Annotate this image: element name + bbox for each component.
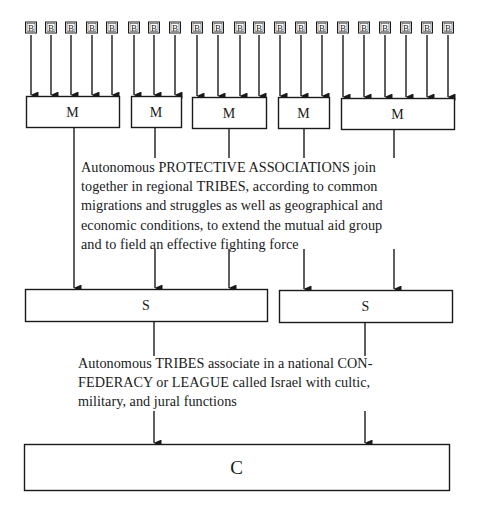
c-confederacy: C (25, 445, 450, 491)
caption-line: migrations and struggles as well as geog… (81, 196, 401, 215)
b-unit: B (149, 22, 160, 33)
b-unit-label: B (48, 23, 54, 33)
b-unit-label: B (109, 23, 115, 33)
b-unit-label: B (89, 23, 95, 33)
b-level-units: BBBBBBBBBBBBBBBBBBBBB (26, 22, 454, 33)
b-unit-label: B (298, 23, 304, 33)
b-unit: B (380, 22, 391, 33)
b-unit: B (66, 22, 77, 33)
b-unit: B (46, 22, 57, 33)
b-unit-label: B (68, 23, 74, 33)
b-unit: B (338, 22, 349, 33)
b-unit: B (359, 22, 370, 33)
s-tribe-2: S (280, 291, 453, 323)
caption-tribes-to-confederacy: Autonomous TRIBES associate in a nationa… (78, 354, 400, 412)
caption-line: FEDERACY or LEAGUE called Israel with cu… (78, 373, 400, 392)
b-unit-label: B (215, 23, 221, 33)
caption-line: Autonomous PROTECTIVE ASSOCIATIONS join (81, 158, 401, 177)
b-unit-label: B (28, 23, 34, 33)
m-association-4: M (279, 98, 330, 129)
b-unit: B (235, 22, 246, 33)
b-unit: B (213, 22, 224, 33)
s-level-tribes: SS (26, 290, 453, 323)
c-level-confederacy: C (25, 445, 450, 491)
m-association-2-label: M (150, 105, 163, 120)
b-unit: B (129, 22, 140, 33)
b-unit: B (26, 22, 37, 33)
caption-line: economic conditions, to extend the mutua… (81, 216, 401, 235)
b-unit-label: B (403, 23, 409, 33)
b-unit-label: B (361, 23, 367, 33)
b-unit: B (422, 22, 433, 33)
b-unit-label: B (319, 23, 325, 33)
b-unit: B (317, 22, 328, 33)
m-association-1-label: M (66, 105, 79, 120)
b-unit: B (296, 22, 307, 33)
caption-line: military, and jural functions (78, 392, 400, 411)
m-association-5: M (342, 99, 455, 130)
b-unit: B (170, 22, 181, 33)
caption-line: Autonomous TRIBES associate in a nationa… (78, 354, 400, 373)
b-unit-label: B (445, 23, 451, 33)
b-unit-label: B (424, 23, 430, 33)
caption-line: and to field an effective fighting force (81, 235, 401, 254)
b-unit-label: B (172, 23, 178, 33)
b-unit: B (443, 22, 454, 33)
b-unit-label: B (131, 23, 137, 33)
caption-associations-to-tribes: Autonomous PROTECTIVE ASSOCIATIONS join … (81, 158, 401, 254)
b-unit-label: B (277, 23, 283, 33)
m-association-5-label: M (391, 107, 404, 122)
b-unit-label: B (237, 23, 243, 33)
m-association-3-label: M (223, 106, 236, 121)
b-unit-label: B (194, 23, 200, 33)
b-unit-label: B (340, 23, 346, 33)
b-unit-label: B (382, 23, 388, 33)
b-to-m-arrows (31, 35, 448, 97)
m-association-3: M (193, 98, 267, 129)
b-unit: B (107, 22, 118, 33)
b-unit: B (275, 22, 286, 33)
m-association-2: M (132, 97, 182, 128)
caption-line: together in regional TRIBES, according t… (81, 177, 401, 196)
s-tribe-1-label: S (142, 298, 150, 313)
c-confederacy-label: C (230, 457, 243, 478)
b-unit: B (401, 22, 412, 33)
s-tribe-1: S (26, 290, 268, 322)
b-unit-label: B (256, 23, 262, 33)
b-unit: B (87, 22, 98, 33)
b-unit: B (254, 22, 265, 33)
s-tribe-2-label: S (362, 299, 370, 314)
m-level-associations: MMMMM (27, 97, 455, 130)
b-unit-label: B (151, 23, 157, 33)
m-association-4-label: M (297, 106, 310, 121)
b-unit: B (192, 22, 203, 33)
m-association-1: M (27, 97, 120, 128)
social-organization-diagram: BBBBBBBBBBBBBBBBBBBBB MMMMM SS C (0, 0, 481, 520)
